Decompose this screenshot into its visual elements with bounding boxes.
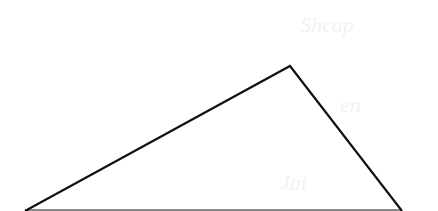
diagram-canvas: Shcap en Jai [0,0,438,211]
triangle-sides [25,66,402,211]
triangle-figure [0,0,438,211]
